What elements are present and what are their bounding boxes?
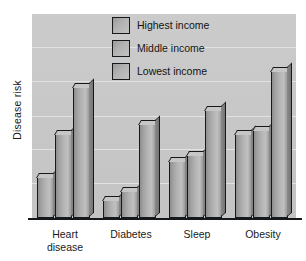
bar xyxy=(169,161,186,218)
bar xyxy=(37,177,54,218)
legend-item-lowest-income: Lowest income xyxy=(112,62,209,80)
x-axis-category-label: Obesity xyxy=(230,228,296,241)
legend-label-lowest-income: Lowest income xyxy=(137,65,207,77)
legend-swatch-lowest-income xyxy=(112,63,130,80)
legend-label-middle-income: Middle income xyxy=(137,42,205,54)
gridline xyxy=(32,81,296,82)
bar xyxy=(55,134,72,218)
bar xyxy=(139,124,156,218)
legend-item-middle-income: Middle income xyxy=(112,39,209,57)
bar-side-face xyxy=(287,63,292,217)
bar xyxy=(205,110,222,218)
legend-item-highest-income: Highest income xyxy=(112,16,209,34)
bar xyxy=(121,191,138,218)
bar xyxy=(235,134,252,218)
legend-label-highest-income: Highest income xyxy=(137,19,209,31)
bar xyxy=(73,87,90,218)
bar-side-face xyxy=(155,116,160,217)
bar-chart: Disease risk Highest income Middle incom… xyxy=(0,0,306,261)
bar xyxy=(271,71,288,218)
legend-swatch-highest-income xyxy=(112,17,130,34)
bar xyxy=(253,130,270,218)
legend-swatch-middle-income xyxy=(112,40,130,57)
chart-legend: Highest income Middle income Lowest inco… xyxy=(112,16,209,80)
x-axis-category-label: Heart disease xyxy=(32,228,98,253)
x-axis-category-label: Sleep xyxy=(164,228,230,241)
x-axis-line xyxy=(28,218,302,220)
x-axis-category-label: Diabetes xyxy=(98,228,164,241)
bar xyxy=(103,200,120,218)
bar-side-face xyxy=(89,79,94,217)
bar-side-face xyxy=(221,101,226,217)
bar xyxy=(187,155,204,218)
y-axis-title: Disease risk xyxy=(11,55,23,165)
